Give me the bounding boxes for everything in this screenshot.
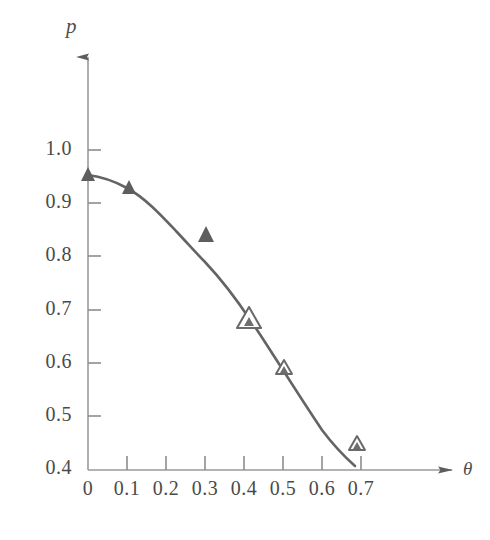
y-tick-label: 0.5: [14, 403, 72, 426]
figure-chart: p θ 1.0 0.9 0.8 0.7 0.6 0.5 0.4 0.3 0 0.…: [0, 0, 490, 540]
marker-filled-triangle: [81, 167, 95, 181]
marker-filled-triangle: [198, 226, 214, 242]
x-axis-ticks: [127, 456, 361, 470]
y-tick-label: 0.8: [14, 243, 72, 266]
y-axis-label: p: [66, 14, 77, 39]
marker-open-triangle-with-dot: [349, 436, 365, 450]
y-axis-ticks: [88, 150, 101, 443]
x-tick-label: 0: [74, 477, 102, 500]
data-markers: [81, 167, 365, 450]
y-tick-label: 1.0: [14, 137, 72, 160]
x-axis-label: θ: [463, 458, 472, 480]
marker-open-triangle-with-dot: [237, 307, 261, 328]
data-curve: [88, 175, 355, 466]
y-tick-label: 0.9: [14, 190, 72, 213]
chart-canvas: [0, 0, 490, 540]
x-tick-label: 0.7: [335, 477, 387, 500]
axes-group: [88, 57, 452, 470]
y-tick-label: 0.6: [14, 350, 72, 373]
y-tick-label: 0.7: [14, 297, 72, 320]
